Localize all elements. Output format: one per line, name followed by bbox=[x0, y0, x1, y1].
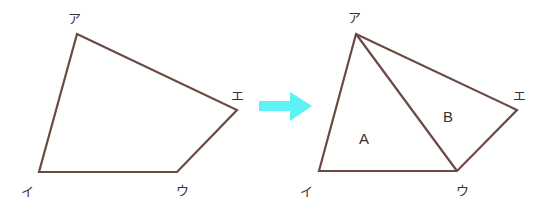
vertex-label-i: イ bbox=[21, 184, 34, 199]
quadrilateral-outline bbox=[39, 34, 237, 172]
vertex-label-u: ウ bbox=[456, 183, 469, 198]
region-label-a: A bbox=[359, 130, 369, 147]
vertex-label-e: エ bbox=[231, 88, 244, 103]
vertex-label-e: エ bbox=[513, 88, 526, 103]
vertex-label-a: ア bbox=[348, 10, 361, 25]
quadrilateral-division-diagram: ア エ ウ イ ア エ ウ イ A B bbox=[0, 0, 551, 200]
right-arrow-icon bbox=[259, 92, 312, 121]
quadrilateral-outline bbox=[319, 34, 517, 171]
vertex-label-i: イ bbox=[300, 184, 313, 199]
region-label-b: B bbox=[443, 108, 453, 125]
diagonal-line bbox=[356, 34, 457, 171]
left-quadrilateral: ア エ ウ イ bbox=[21, 11, 244, 199]
vertex-label-u: ウ bbox=[176, 183, 189, 198]
right-quadrilateral: ア エ ウ イ A B bbox=[300, 10, 526, 199]
vertex-label-a: ア bbox=[68, 11, 81, 26]
